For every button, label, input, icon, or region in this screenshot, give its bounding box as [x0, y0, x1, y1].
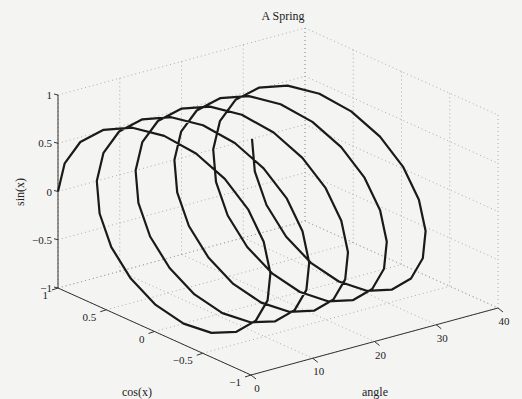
- x-tick-label: 1: [43, 289, 49, 301]
- y-tick-label: 40: [499, 315, 511, 327]
- y-tick: [313, 358, 318, 362]
- y-tick-label: 30: [437, 332, 449, 344]
- chart-title: A Spring: [261, 9, 304, 23]
- y-tick: [436, 325, 441, 329]
- y-axis-label: angle: [362, 385, 388, 399]
- z-tick-label: 1: [47, 89, 53, 101]
- y-tick: [498, 308, 503, 312]
- z-tick: [54, 239, 58, 240]
- y-tick-label: 20: [375, 349, 387, 361]
- spring-polyline: [58, 86, 426, 333]
- grid-lines: [58, 28, 498, 375]
- spring-3d-chart: 10.50−0.5−110.50−0.5−1010203040 A Spring…: [0, 0, 522, 399]
- x-tick-label: −1: [229, 376, 241, 388]
- z-tick: [54, 94, 58, 95]
- x-tick-label: 0.5: [83, 311, 97, 323]
- x-tick: [149, 332, 155, 334]
- x-tick-label: 0: [139, 333, 145, 345]
- x-tick-label: −0.5: [173, 354, 193, 366]
- z-tick: [54, 142, 58, 143]
- y-tick: [375, 342, 380, 346]
- grid-line: [120, 271, 313, 358]
- x-tick: [52, 288, 58, 290]
- y-tick-label: 10: [313, 365, 325, 377]
- spring-line: [58, 86, 426, 333]
- z-axis-label: sin(x): [13, 178, 27, 206]
- tick-labels: 10.50−0.5−110.50−0.5−1010203040: [32, 89, 510, 394]
- z-tick-label: 0: [47, 186, 53, 198]
- y-tick: [251, 375, 256, 379]
- grid-line: [155, 265, 402, 332]
- z-tick-label: −0.5: [32, 234, 52, 246]
- x-tick: [197, 353, 203, 355]
- z-tick-label: 0.5: [38, 137, 52, 149]
- x-axis-label: cos(x): [122, 385, 152, 399]
- y-tick-label: 0: [254, 382, 260, 394]
- x-tick: [100, 310, 106, 312]
- x-tick: [245, 375, 251, 377]
